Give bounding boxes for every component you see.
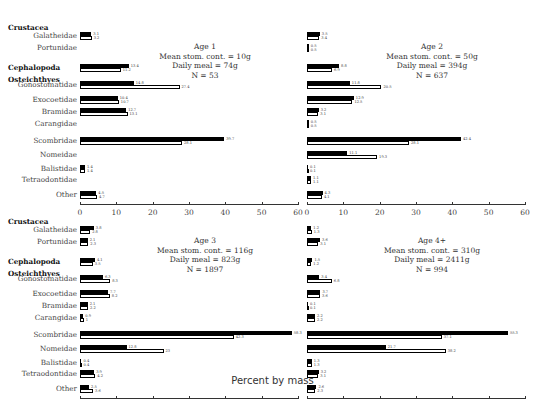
white-bar (80, 262, 93, 266)
bar-value: 20.5 (383, 85, 391, 89)
white-bar (307, 349, 446, 353)
x-tick (380, 396, 381, 399)
x-tick-label: 30 (184, 208, 194, 217)
bar-value: 0.1 (310, 169, 316, 173)
white-bar (80, 242, 88, 246)
bar-value: 3.1 (320, 242, 326, 246)
x-tick-label: 40 (448, 208, 458, 217)
x-tick-label: 0 (78, 208, 83, 217)
category-label: Portunidae (37, 43, 77, 52)
category-label: Tetraodontidae (22, 175, 77, 184)
white-bar (307, 141, 409, 145)
category-label: Gonostomatidae (18, 274, 77, 283)
bar-value: 38.2 (448, 349, 456, 353)
white-bar (80, 195, 97, 199)
white-bar (307, 335, 442, 339)
bar-value: 58.3 (294, 331, 302, 335)
white-bar (307, 68, 332, 72)
bar-value: 37.1 (444, 335, 452, 339)
bar-value: 2.3 (317, 389, 323, 393)
group-label: Cephalopoda (8, 63, 60, 72)
category-label: Bramidae (42, 301, 77, 310)
category-label: Nomeidae (40, 150, 77, 159)
x-tick-label: 50 (484, 208, 494, 217)
bar-value: 2.2 (90, 306, 96, 310)
white-bar (307, 124, 309, 128)
x-tick (416, 202, 417, 205)
category-label: Galatheidae (33, 31, 77, 40)
category-label: Gonostomatidae (18, 80, 77, 89)
x-axis-label: Percent by mass (0, 375, 545, 386)
white-bar (307, 112, 318, 116)
bar-value: 8.3 (112, 279, 118, 283)
white-bar (80, 36, 92, 40)
bar-value: 4.1 (324, 195, 330, 199)
category-label: Exocoetidae (32, 95, 77, 104)
x-tick (262, 396, 263, 399)
bar-value: 55.3 (510, 331, 518, 335)
bar-value: 4.7 (99, 195, 105, 199)
white-bar (307, 318, 315, 322)
x-tick (153, 396, 154, 399)
white-bar (80, 279, 110, 283)
white-bar (307, 306, 309, 310)
x-tick (116, 202, 117, 205)
bar-value: 3.4 (321, 36, 327, 40)
category-label: Other (56, 190, 77, 199)
bar-value: 27.4 (182, 85, 190, 89)
white-bar (80, 100, 119, 104)
x-tick (380, 202, 381, 205)
bar-value: 8.2 (112, 294, 118, 298)
white-bar (307, 279, 332, 283)
x-tick (225, 396, 226, 399)
x-tick (307, 396, 308, 399)
bar-value: 42.3 (236, 335, 244, 339)
bar-value: 1.1 (313, 180, 319, 184)
panel-info: Age 4+Mean stom. cont. = 310gDaily meal … (384, 236, 480, 274)
white-bar (307, 242, 318, 246)
x-tick (298, 396, 299, 399)
category-label: Balistidae (41, 358, 77, 367)
white-bar (307, 36, 319, 40)
bar-value: 28.1 (184, 141, 192, 145)
bar-value: 1.4 (87, 169, 93, 173)
white-bar (307, 48, 309, 52)
bar-value: 12.5 (354, 100, 362, 104)
x-tick (189, 202, 190, 205)
white-bar (307, 195, 322, 199)
x-tick-label: 30 (411, 208, 421, 217)
white-bar (307, 230, 312, 234)
x-tick-label: 10 (339, 208, 349, 217)
white-bar (80, 169, 85, 173)
x-tick-label: 20 (148, 208, 158, 217)
bar-value: 6.8 (334, 279, 340, 283)
bar-value: 39.7 (226, 137, 234, 141)
x-tick (307, 202, 308, 205)
white-bar (80, 306, 88, 310)
x-tick (80, 202, 81, 205)
panel-info: Age 3Mean stom. cont. = 116gDaily meal =… (157, 236, 253, 274)
white-bar (307, 155, 377, 159)
x-tick (80, 396, 81, 399)
x-tick (452, 396, 453, 399)
bar-value: 0.5 (311, 48, 317, 52)
category-label: Carangidae (35, 313, 77, 322)
white-bar (80, 68, 121, 72)
x-tick (343, 396, 344, 399)
x-tick-label: 40 (221, 208, 231, 217)
x-tick (416, 396, 417, 399)
white-bar (80, 85, 180, 89)
white-bar (307, 389, 315, 393)
white-bar (80, 349, 164, 353)
x-tick-label: 50 (257, 208, 267, 217)
white-bar (80, 363, 82, 367)
bar-value: 8.8 (341, 64, 347, 68)
white-bar (80, 335, 234, 339)
bar-value: 3.6 (322, 294, 328, 298)
category-label: Scombridae (33, 136, 77, 145)
white-bar (80, 141, 182, 145)
white-bar (80, 389, 93, 393)
bar-value: 3.5 (95, 262, 101, 266)
category-label: Balistidae (41, 164, 77, 173)
x-tick-label: 60 (293, 208, 303, 217)
